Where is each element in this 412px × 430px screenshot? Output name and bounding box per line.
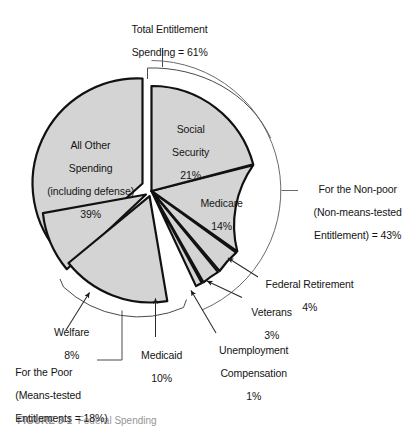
all-other-value: 39% <box>80 208 101 220</box>
for-the-poor-line1: For the Poor <box>15 366 72 378</box>
unemployment-line2: Compensation <box>220 367 287 379</box>
social-security-value: 21% <box>180 169 201 181</box>
annotation-total-entitlement: Total Entitlement Spending = 61% <box>84 12 244 70</box>
welfare-name: Welfare <box>54 326 89 338</box>
non-poor-line3: Entitlement) = 43% <box>314 229 401 241</box>
federal-retirement-value: 4% <box>302 301 317 313</box>
non-poor-line2: (Non-means-tested <box>314 206 402 218</box>
total-entitlement-line2: Spending = 61% <box>132 46 208 58</box>
social-security-line2: Security <box>172 146 209 158</box>
federal-retirement-name: Federal Retirement <box>266 278 354 290</box>
non-poor-line1: For the Non-poor <box>318 183 396 195</box>
all-other-line1: All Other <box>70 139 110 151</box>
unemployment-line1: Unemployment <box>219 344 288 356</box>
medicaid-value: 10% <box>151 372 172 384</box>
medicare-name: Medicare <box>200 197 242 209</box>
total-entitlement-line1: Total Entitlement <box>132 23 208 35</box>
annotation-non-poor: For the Non-poor (Non-means-tested Entit… <box>293 172 411 253</box>
figure-caption-label: FIGURE 3-1 <box>17 415 72 426</box>
for-the-poor-line2: (Means-tested <box>15 389 81 401</box>
leader-unemployment <box>191 291 216 334</box>
slice-label-unemployment-compensation: Unemployment Compensation 1% <box>203 333 293 414</box>
medicare-value: 14% <box>211 220 232 232</box>
veterans-name: Veterans <box>251 306 292 318</box>
unemployment-value: 1% <box>246 390 261 402</box>
figure-caption-text: Federal Spending <box>72 415 157 426</box>
figure-caption: FIGURE 3-1 Federal Spending <box>6 404 157 430</box>
slice-label-all-other-spending: All Other Spending (including defense) 3… <box>27 128 143 232</box>
social-security-line1: Social <box>177 123 205 135</box>
all-other-line2: Spending <box>69 162 113 174</box>
medicaid-name: Medicaid <box>141 349 182 361</box>
slice-label-medicare: Medicare 14% <box>178 186 254 244</box>
all-other-line3: (including defense) <box>47 185 134 197</box>
slice-label-social-security: Social Security 21% <box>150 112 220 193</box>
